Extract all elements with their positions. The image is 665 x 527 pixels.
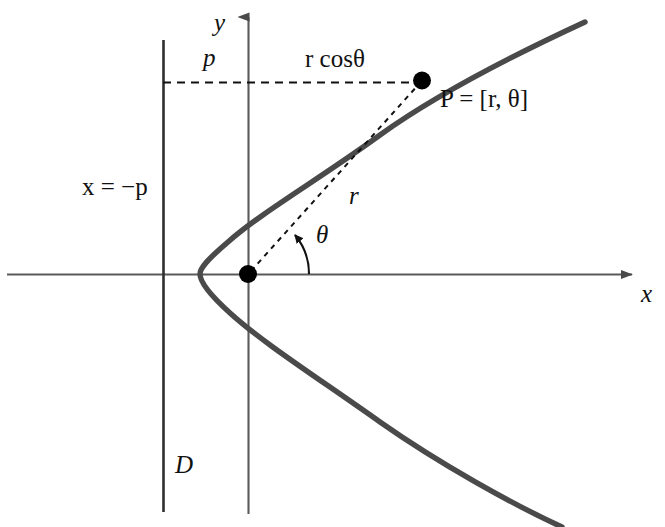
point-p-marker (413, 72, 431, 90)
horizontal-projection-label: r cosθ (305, 46, 365, 71)
theta-angle-label: θ (316, 222, 328, 247)
radius-label: r (349, 183, 359, 208)
directrix-name-label: D (175, 452, 193, 477)
y-axis-label: y (214, 10, 225, 35)
x-axis-label: x (641, 281, 652, 306)
point-p-label: P = [r, θ] (440, 86, 528, 111)
parabola-polar-figure: y x p r cosθ P = [r, θ] x = −p r θ D (0, 0, 665, 527)
focus-origin-point (239, 265, 257, 283)
theta-angle-arc (295, 235, 309, 274)
focal-distance-label: p (203, 45, 216, 70)
figure-canvas (0, 0, 665, 527)
radius-dashed-line (251, 84, 419, 271)
directrix-equation-label: x = −p (82, 174, 148, 199)
